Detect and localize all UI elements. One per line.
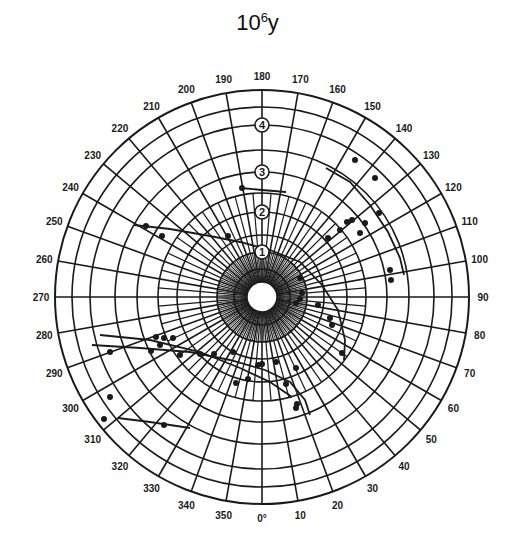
data-point xyxy=(299,290,305,296)
ring-label: 2 xyxy=(259,206,265,218)
data-point xyxy=(161,335,167,341)
angle-label: 190 xyxy=(215,74,232,85)
angle-label: 320 xyxy=(112,461,129,472)
angle-label: 290 xyxy=(46,368,63,379)
data-point xyxy=(337,227,343,233)
angle-label: 240 xyxy=(62,182,79,193)
radial-spoke xyxy=(265,312,298,501)
data-point xyxy=(387,267,393,273)
data-point xyxy=(143,223,149,229)
data-point xyxy=(357,230,363,236)
data-point xyxy=(293,405,299,411)
angle-label: 180 xyxy=(254,71,271,82)
angle-label: 20 xyxy=(332,500,344,511)
data-point xyxy=(230,349,236,355)
upper-left-short xyxy=(240,188,286,192)
angle-label: 0° xyxy=(257,513,267,524)
angle-label: 250 xyxy=(46,216,63,227)
angle-label: 60 xyxy=(448,403,460,414)
data-point xyxy=(101,416,107,422)
data-point xyxy=(159,233,165,239)
angle-label: 50 xyxy=(426,434,438,445)
data-point xyxy=(372,175,378,181)
angle-label: 130 xyxy=(423,150,440,161)
data-point xyxy=(177,352,183,358)
data-point xyxy=(157,342,163,348)
angle-label: 280 xyxy=(36,330,53,341)
angle-label: 140 xyxy=(396,123,413,134)
angle-label: 310 xyxy=(84,434,101,445)
radial-spoke xyxy=(277,261,466,294)
angle-label: 80 xyxy=(474,330,486,341)
data-point xyxy=(107,394,113,400)
data-point xyxy=(329,322,335,328)
ring-label: 4 xyxy=(259,119,266,131)
data-point xyxy=(107,349,113,355)
data-point xyxy=(170,335,176,341)
angle-label: 260 xyxy=(36,254,53,265)
angle-label: 70 xyxy=(464,368,476,379)
radial-spoke xyxy=(226,312,259,501)
data-point xyxy=(161,422,167,428)
ring-label: 3 xyxy=(259,166,265,178)
data-point xyxy=(283,381,289,387)
radial-spoke xyxy=(277,300,466,333)
angle-label: 230 xyxy=(84,150,101,161)
angle-label: 330 xyxy=(143,483,160,494)
data-point xyxy=(293,300,299,306)
angle-label: 10 xyxy=(295,510,307,521)
data-point xyxy=(325,235,331,241)
data-point xyxy=(233,380,239,386)
data-point xyxy=(197,351,203,357)
angle-label: 350 xyxy=(215,510,232,521)
data-point xyxy=(388,277,394,283)
center-circle xyxy=(247,282,277,312)
angle-label: 270 xyxy=(33,292,50,303)
data-point xyxy=(153,334,159,340)
data-point xyxy=(245,376,251,382)
angle-label: 170 xyxy=(292,74,309,85)
radial-spoke xyxy=(58,261,247,294)
angle-label: 340 xyxy=(178,500,195,511)
data-point xyxy=(255,362,261,368)
angle-label: 100 xyxy=(471,254,488,265)
data-point xyxy=(352,157,358,163)
angle-label: 110 xyxy=(462,216,479,227)
data-point xyxy=(327,315,333,321)
data-point xyxy=(376,210,382,216)
angle-label: 30 xyxy=(367,483,379,494)
polar-diagram: 0°10203040506070809010011012013014015016… xyxy=(0,0,515,551)
radial-spoke xyxy=(58,300,247,333)
data-point xyxy=(273,359,279,365)
data-point xyxy=(349,217,355,223)
data-point xyxy=(239,185,245,191)
angle-label: 120 xyxy=(445,182,462,193)
angle-label: 160 xyxy=(329,84,346,95)
angle-label: 210 xyxy=(143,101,160,112)
angle-label: 90 xyxy=(477,292,489,303)
angle-label: 300 xyxy=(62,403,79,414)
angle-label: 200 xyxy=(178,84,195,95)
data-point xyxy=(339,350,345,356)
data-point xyxy=(225,233,231,239)
data-point xyxy=(211,351,217,357)
angle-label: 40 xyxy=(398,461,410,472)
ring-label: 1 xyxy=(259,246,265,258)
data-point xyxy=(297,275,303,281)
angle-label: 150 xyxy=(364,101,381,112)
data-point xyxy=(293,365,299,371)
angle-label: 220 xyxy=(112,123,129,134)
data-point xyxy=(362,220,368,226)
data-point xyxy=(315,302,321,308)
data-point xyxy=(148,348,154,354)
